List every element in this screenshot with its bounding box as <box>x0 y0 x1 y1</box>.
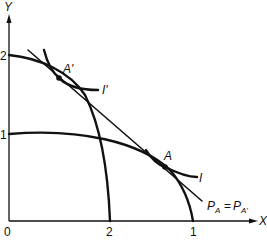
point-a-label: A <box>163 149 172 163</box>
x-axis-label: X <box>258 214 267 228</box>
point-a-prime-label: A' <box>62 62 74 76</box>
axes <box>7 14 259 224</box>
price-equals: = <box>224 199 231 213</box>
point-a-prime-marker <box>56 75 62 81</box>
y-axis-label: Y <box>4 0 13 14</box>
y-tick-2: 2 <box>0 49 7 63</box>
price-p-a: PA <box>207 199 220 215</box>
indifference-i-label: I <box>199 171 203 185</box>
price-line-label: PA = PA' <box>207 199 248 215</box>
x-tick-1: 1 <box>190 225 197 239</box>
y-axis-arrow-icon <box>7 14 12 23</box>
y-tick-1: 1 <box>0 128 7 142</box>
indifference-i-prime-label: I' <box>102 83 108 97</box>
x-tick-2: 2 <box>106 225 113 239</box>
price-p-a-prime: PA' <box>233 199 248 215</box>
origin-label: 0 <box>4 225 11 239</box>
production-possibility-diagram: Y X 0 2 1 2 1 A' A I' I PA = PA' <box>0 0 267 243</box>
x-axis-arrow-icon <box>249 219 258 224</box>
point-a-marker <box>162 164 168 170</box>
